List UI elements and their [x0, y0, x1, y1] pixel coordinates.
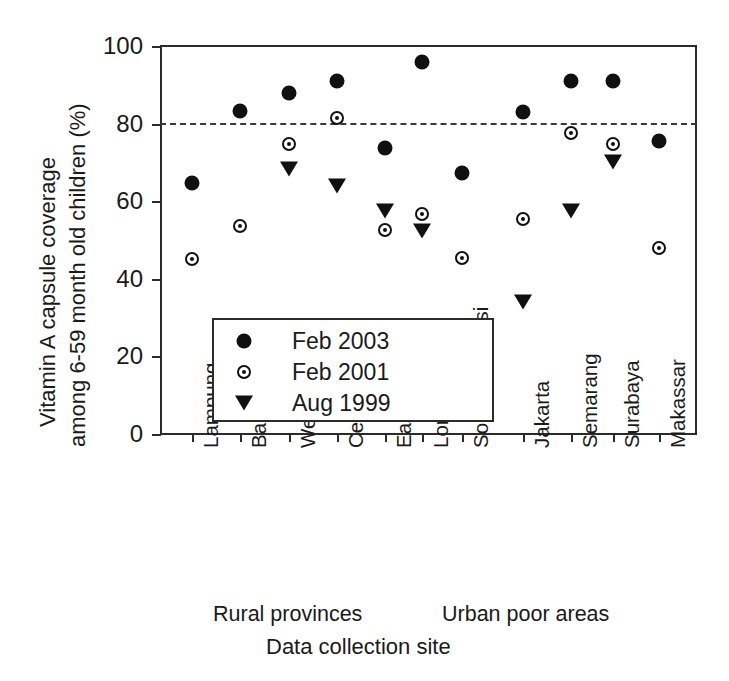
legend-row: Feb 2003	[214, 326, 492, 356]
group-label-rural: Rural provinces	[213, 602, 362, 626]
filled-circle-icon	[237, 334, 252, 349]
x-axis-title: Data collection site	[266, 634, 451, 659]
legend-row: Feb 2001	[214, 357, 492, 387]
legend-label-feb-2003: Feb 2003	[292, 326, 389, 356]
open-circle-dot-icon	[237, 365, 251, 379]
legend-row: Aug 1999	[214, 388, 492, 418]
legend-label-feb-2001: Feb 2001	[292, 357, 389, 387]
group-label-urban: Urban poor areas	[442, 602, 609, 626]
triangle-down-icon	[235, 396, 253, 411]
legend: Feb 2003 Feb 2001 Aug 1999	[212, 318, 494, 422]
legend-label-aug-1999: Aug 1999	[292, 388, 390, 418]
y-axis-title-line2: among 6-59 month old children (%)	[64, 103, 91, 447]
y-axis-title-line1: Vitamin A capsule coverage	[34, 157, 61, 427]
chart-figure: 020406080100 LampungBantenWest JavaCentr…	[0, 0, 729, 681]
